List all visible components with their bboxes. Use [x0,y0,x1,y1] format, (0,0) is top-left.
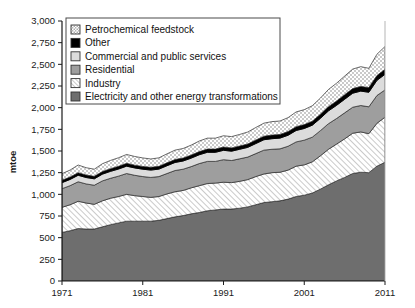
y-tick-label: 250 [39,254,55,265]
chart-legend: Petrochemical feedstockOtherCommercial a… [66,18,280,104]
legend-label-3: Residential [85,64,134,75]
y-tick-label: 2,750 [31,37,55,48]
legend-label-0: Petrochemical feedstock [85,24,195,35]
legend-swatch-5 [71,92,80,101]
legend-label-2: Commercial and public services [85,51,226,62]
x-tick-label: 1971 [51,287,72,298]
x-tick-label: 1981 [132,287,153,298]
chart-container: 02505007501,0001,2501,5001,7502,0002,250… [0,0,415,308]
legend-label-5: Electricity and other energy transformat… [85,91,278,102]
legend-swatch-2 [71,52,80,61]
y-tick-label: 1,500 [31,145,55,156]
x-tick-label: 2011 [375,287,395,298]
stacked-area-chart: 02505007501,0001,2501,5001,7502,0002,250… [0,0,415,308]
y-tick-label: 3,000 [31,15,55,26]
y-tick-label: 500 [39,232,55,243]
x-tick-label: 2001 [294,287,315,298]
legend-swatch-0 [71,25,80,34]
y-tick-label: 1,250 [31,167,55,178]
y-tick-label: 750 [39,210,55,221]
y-tick-label: 2,250 [31,80,55,91]
legend-swatch-1 [71,38,80,47]
legend-label-1: Other [85,37,111,48]
legend-label-4: Industry [85,78,121,89]
y-tick-label: 0 [50,275,55,286]
y-tick-label: 1,750 [31,124,55,135]
y-axis-label: mtoe [7,151,18,174]
legend-swatch-4 [71,79,80,88]
x-tick-label: 1991 [213,287,234,298]
y-tick-label: 2,500 [31,59,55,70]
y-tick-label: 2,000 [31,102,55,113]
legend-swatch-3 [71,65,80,74]
y-tick-label: 1,000 [31,189,55,200]
